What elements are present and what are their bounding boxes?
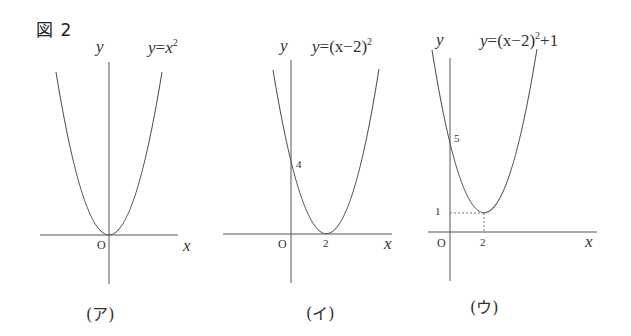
graph-b-x-label: x [384,234,392,254]
graph-c-equation: y=(x−2)2+1 [480,30,558,51]
graph-b-origin-label: O [278,237,287,252]
graph-c-y-label: y [436,30,444,50]
graph-a-eq-sign: = [156,38,166,57]
graph-c-origin-label: O [437,236,446,251]
graph-c-eq-body: (x−2) [497,31,535,50]
graph-b-eq-lhs: y [312,37,320,56]
graph-c-tick-x-2: 2 [480,236,486,248]
graph-c-x-label: x [585,232,593,252]
graph-b-tick-x-2: 2 [323,237,329,249]
graph-a-x-label: x [183,236,191,256]
graph-a [40,62,178,284]
graph-c-tick-y-5: 5 [454,132,460,144]
graph-b-eq-exp: 2 [367,36,372,47]
graph-a-equation: y=x2 [148,37,178,58]
graph-b-y-label: y [280,36,288,56]
graph-b-caption: (イ) [306,300,334,324]
graph-b-equation: y=(x−2)2 [312,36,372,57]
graph-a-eq-exp: 2 [173,37,178,48]
graph-c-parabola [432,49,537,213]
graph-b-parabola [273,69,379,234]
graph-a-caption: (ア) [86,301,114,325]
graph-c [428,49,597,281]
graph-c-eq-tail: +1 [540,31,558,50]
graph-a-y-label: y [96,37,104,57]
graph-c-eq-lhs: y [480,31,488,50]
graph-c-caption: (ウ) [470,294,498,318]
graph-a-origin-label: O [97,238,106,253]
graph-b-eq-body: (x−2) [329,37,367,56]
graph-c-tick-y-1: 1 [435,205,441,217]
graph-c-eq-sign: = [488,31,498,50]
graph-a-eq-lhs: y [148,38,156,57]
graph-b-tick-y-4: 4 [296,158,302,170]
graph-b [223,60,392,283]
graph-a-eq-x: x [165,38,173,57]
graph-b-eq-sign: = [320,37,330,56]
